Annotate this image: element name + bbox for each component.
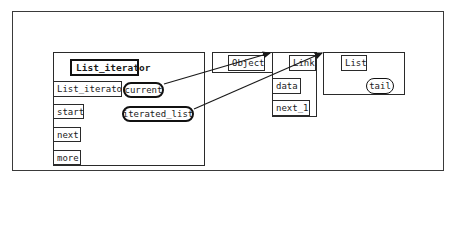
feature-start[interactable]: start [53, 104, 84, 119]
attribute-current[interactable]: current [123, 82, 164, 98]
class-title-list-iterator: List_iterator [70, 59, 139, 76]
attribute-iterated-list[interactable]: iterated_list [122, 106, 194, 122]
attribute-tail[interactable]: tail [366, 78, 394, 94]
class-title-link: Link [289, 55, 316, 71]
feature-list-iterator-constructor[interactable]: List_iterator [53, 81, 122, 97]
feature-next[interactable]: next [53, 127, 81, 142]
feature-data[interactable]: data [272, 78, 301, 94]
feature-next-1[interactable]: next_1 [272, 100, 310, 116]
class-title-list: List [341, 55, 367, 71]
feature-more[interactable]: more [53, 150, 81, 165]
class-title-object: Object [228, 55, 265, 71]
